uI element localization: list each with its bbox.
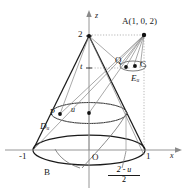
point-C bbox=[133, 64, 137, 68]
point-Q bbox=[124, 65, 128, 69]
point-P bbox=[58, 112, 62, 116]
fraction-numerator: 2 - u bbox=[108, 166, 140, 174]
z-axis-label: z bbox=[95, 12, 98, 20]
point-B-label: B bbox=[44, 168, 50, 177]
cone-right-slant bbox=[89, 36, 145, 150]
point-C-label: C bbox=[140, 60, 146, 69]
region-Eu-label: Eu bbox=[131, 74, 139, 84]
fraction-denominator: 2 bbox=[108, 176, 140, 184]
cone-left-slant bbox=[33, 36, 89, 150]
point-P-label: P bbox=[50, 108, 55, 117]
rays-from-apex bbox=[60, 36, 144, 155]
u-point-label: u bbox=[71, 106, 75, 114]
fraction-annotation: 2 - u 2 bbox=[108, 166, 140, 185]
ray-A-base-left bbox=[33, 35, 144, 150]
point-A bbox=[142, 33, 146, 37]
Du-subscript: u bbox=[47, 125, 50, 131]
x-axis-label: x bbox=[170, 152, 174, 160]
origin-label: O bbox=[92, 153, 99, 162]
x-axis-arrow bbox=[175, 147, 182, 152]
z-axis-arrow bbox=[86, 10, 91, 17]
point-Q-label: Q bbox=[115, 56, 122, 65]
z-tick-t-label: t bbox=[80, 62, 83, 71]
Eu-subscript: u bbox=[137, 77, 140, 83]
x-tick-minus1-label: -1 bbox=[19, 152, 27, 161]
point-A-label: A(1, 0, 2) bbox=[122, 17, 157, 26]
rays-from-A bbox=[33, 35, 144, 150]
point-u-center bbox=[87, 111, 91, 115]
point-apex bbox=[87, 34, 91, 38]
x-tick-1-label: 1 bbox=[146, 152, 151, 161]
cone-diagram bbox=[0, 0, 191, 192]
z-tick-2-label: 2 bbox=[78, 30, 83, 39]
region-Du-label: Du bbox=[40, 122, 49, 132]
